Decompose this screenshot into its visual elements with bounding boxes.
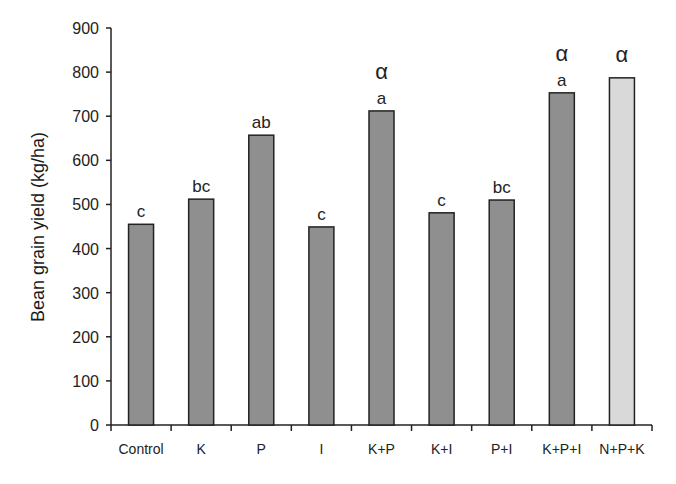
alpha-marker: α: [555, 41, 568, 66]
significance-letter: c: [437, 191, 446, 210]
x-tick-label: K+I: [431, 441, 452, 457]
significance-letter: bc: [493, 178, 511, 197]
alpha-marker: α: [375, 59, 388, 84]
significance-letter: c: [137, 202, 146, 221]
bar: [309, 227, 334, 425]
x-tick-label: P+I: [491, 441, 512, 457]
bar-chart: Bean grain yield (kg/ha) 010020030040050…: [0, 0, 676, 484]
bar: [549, 93, 574, 425]
bar: [189, 199, 214, 425]
x-tick-label: K+P+I: [542, 441, 581, 457]
x-tick-label: K+P: [368, 441, 395, 457]
y-tick-label: 500: [72, 196, 99, 213]
y-tick-label: 800: [72, 64, 99, 81]
x-tick-label: N+P+K: [599, 441, 645, 457]
significance-letter: a: [557, 71, 567, 90]
x-tick-label: P: [257, 441, 266, 457]
y-tick-label: 0: [90, 417, 99, 434]
alpha-marker: α: [616, 42, 629, 67]
x-tick-label: K: [196, 441, 206, 457]
bar: [429, 213, 454, 425]
y-tick-label: 600: [72, 152, 99, 169]
plot-area: 0100200300400500600700800900ControlcKbcP…: [0, 0, 676, 484]
significance-letter: ab: [252, 113, 271, 132]
y-tick-label: 300: [72, 285, 99, 302]
y-tick-label: 100: [72, 373, 99, 390]
bar: [369, 111, 394, 425]
significance-letter: a: [377, 89, 387, 108]
y-tick-label: 900: [72, 20, 99, 37]
bar: [129, 224, 154, 425]
bar: [489, 200, 514, 425]
y-axis-label: Bean grain yield (kg/ha): [28, 97, 48, 357]
significance-letter: bc: [192, 177, 210, 196]
y-tick-label: 400: [72, 241, 99, 258]
bar: [249, 135, 274, 425]
significance-letter: c: [317, 205, 326, 224]
y-tick-label: 700: [72, 108, 99, 125]
y-tick-label: 200: [72, 329, 99, 346]
bar: [609, 78, 634, 425]
x-tick-label: I: [319, 441, 323, 457]
x-tick-label: Control: [118, 441, 163, 457]
